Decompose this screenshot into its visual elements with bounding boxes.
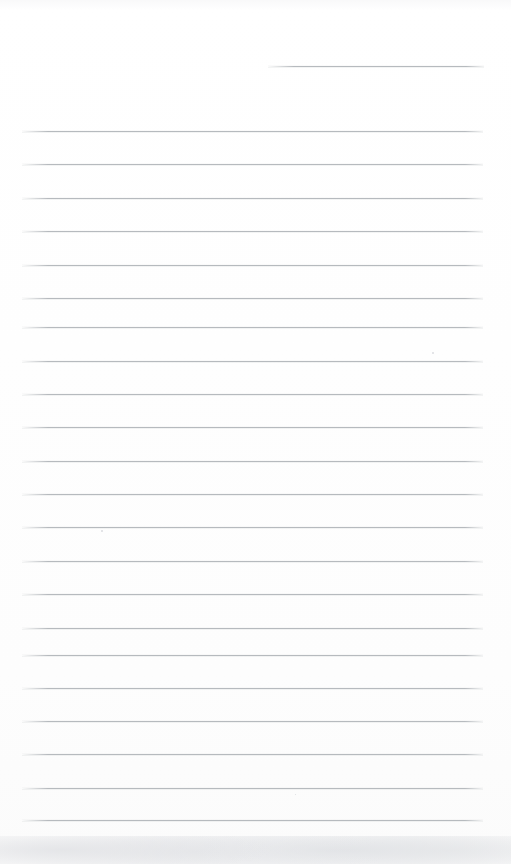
ruled-line — [22, 164, 483, 165]
ruled-line — [22, 461, 483, 462]
ruled-line — [22, 394, 483, 395]
scan-top-shadow — [0, 0, 511, 10]
scan-speck — [295, 794, 296, 795]
ruled-line — [22, 628, 483, 629]
ruled-line — [22, 327, 483, 328]
ruled-line — [22, 688, 483, 689]
ruled-line — [22, 427, 483, 428]
ruled-line — [22, 754, 483, 755]
ruled-line — [22, 494, 483, 495]
ruled-line — [22, 721, 483, 722]
ruled-line — [22, 198, 483, 199]
ruled-line — [22, 655, 483, 656]
ruled-line — [22, 265, 483, 266]
ruled-line — [22, 527, 483, 528]
ruled-line — [22, 361, 483, 362]
scan-speck — [432, 352, 434, 354]
ruled-line — [22, 131, 483, 132]
ruled-line — [22, 231, 483, 232]
ruled-line — [268, 66, 484, 67]
scan-smudge-artifact — [0, 836, 511, 864]
scan-speck — [101, 530, 103, 532]
scanned-page — [0, 0, 511, 864]
ruled-line — [22, 594, 483, 595]
ruled-line — [22, 820, 483, 821]
ruled-line — [22, 561, 483, 562]
ruled-line — [22, 788, 483, 789]
ruled-line — [22, 298, 483, 299]
paper-texture-overlay — [0, 0, 511, 864]
